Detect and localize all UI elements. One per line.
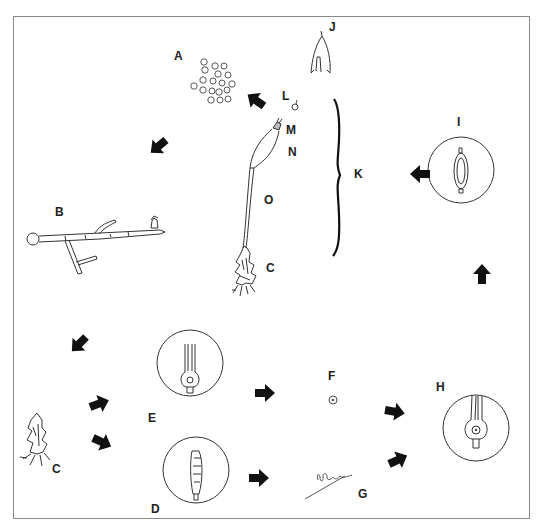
label-k: K	[354, 168, 363, 180]
archegonium-circle-e	[157, 330, 223, 396]
label-l: L	[282, 90, 289, 102]
protonema-b	[27, 216, 165, 274]
egg-f	[329, 396, 337, 404]
antheridium-circle-d	[163, 437, 229, 503]
arrow-egg-to-h	[383, 401, 406, 422]
label-n: N	[288, 146, 297, 158]
label-a: A	[174, 50, 183, 62]
label-o: O	[264, 194, 273, 206]
label-j: J	[329, 21, 336, 33]
sperm-g	[305, 474, 352, 499]
arrow-to-egg	[255, 384, 275, 402]
label-c-bottom: C	[52, 463, 61, 475]
arrow-to-spores	[242, 87, 269, 113]
label-e: E	[148, 412, 156, 424]
arrow-to-antheridium	[89, 430, 115, 455]
label-d: D	[151, 503, 160, 515]
calyptra-j	[311, 31, 330, 73]
gametophyte-c-bottom	[20, 413, 50, 466]
label-b: B	[55, 206, 64, 218]
arrow-to-sperm	[249, 469, 269, 487]
arrow-to-gametophyte	[65, 331, 92, 358]
arrow-to-archegonium	[87, 392, 112, 416]
arrow-sperm-to-h	[385, 447, 411, 472]
spores-a	[191, 59, 235, 103]
arrows	[65, 87, 491, 487]
label-f: F	[328, 370, 335, 382]
label-h: H	[436, 381, 445, 393]
fertilization-circle-h	[443, 395, 509, 461]
embryo-circle-i	[428, 137, 494, 203]
label-c-top: C	[266, 262, 275, 274]
label-g: G	[358, 488, 367, 500]
arrow-i-to-k	[410, 165, 430, 183]
operculum-l	[292, 100, 298, 110]
brace-k	[333, 99, 340, 256]
arrow-to-protonema	[145, 133, 172, 160]
arrow-h-to-i	[473, 264, 491, 284]
label-i: I	[457, 116, 460, 128]
label-m: M	[286, 124, 296, 136]
